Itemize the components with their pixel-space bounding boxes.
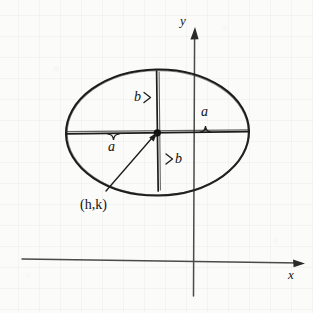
diagram-canvas: [0, 0, 313, 313]
x-axis-label: x: [288, 268, 294, 281]
y-axis-arrowhead: [190, 27, 198, 40]
b-top-tick: [144, 93, 151, 103]
x-axis-line: [22, 259, 300, 263]
a-right-brace: [200, 126, 211, 132]
semi-minor-bottom-label: b: [175, 152, 182, 166]
center-coordinates-label: (h,k): [80, 198, 107, 212]
ellipse-diagram-figure: y x b b a a (h,k): [0, 0, 313, 313]
semi-major-right-label: a: [201, 105, 208, 119]
axes-group: [22, 27, 305, 296]
semi-major-left-label: a: [108, 140, 115, 154]
b-bottom-tick: [166, 154, 173, 164]
y-axis-label: y: [180, 14, 186, 27]
semi-minor-top-label: b: [134, 90, 141, 104]
x-axis-arrowhead: [293, 260, 305, 268]
